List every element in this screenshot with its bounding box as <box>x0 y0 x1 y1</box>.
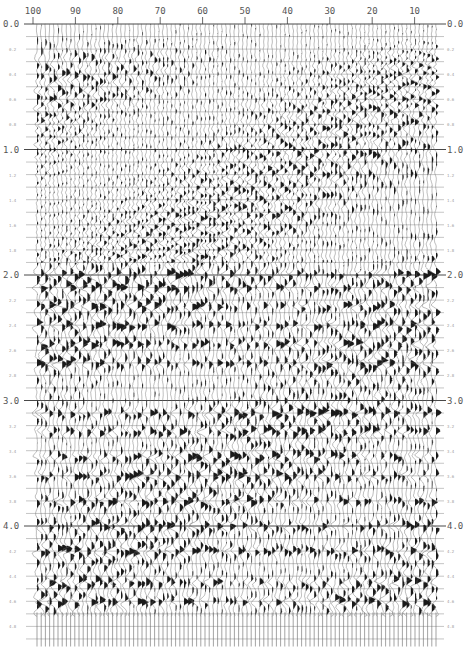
seismic-trace <box>254 24 264 616</box>
trace-fill <box>159 31 164 606</box>
time-minor-label: 4.4 <box>447 574 454 579</box>
time-minor-label: 4.6 <box>9 599 16 604</box>
time-minor-label: 2.2 <box>447 298 454 303</box>
seismic-plot-area <box>0 0 469 664</box>
time-minor-label: 0.4 <box>9 72 16 77</box>
time-minor-label: 0.6 <box>447 97 454 102</box>
time-major-label: 0.0 <box>3 19 19 29</box>
x-tick-label: 50 <box>240 6 251 16</box>
trace-fill <box>255 28 260 615</box>
trace-fill <box>276 25 283 606</box>
time-minor-label: 4.4 <box>9 574 16 579</box>
time-minor-label: 1.8 <box>9 247 16 252</box>
time-minor-label: 2.8 <box>447 373 454 378</box>
time-major-label: 2.0 <box>447 270 463 280</box>
time-major-label: 1.0 <box>3 145 19 155</box>
seismic-trace <box>307 24 320 616</box>
time-minor-label: 4.2 <box>447 549 454 554</box>
time-minor-label: 3.4 <box>9 448 16 453</box>
seismic-trace <box>77 24 88 616</box>
time-minor-label: 0.2 <box>447 47 454 52</box>
seismic-trace <box>56 24 68 616</box>
time-minor-label: 4.6 <box>447 599 454 604</box>
time-major-label: 4.0 <box>3 521 19 531</box>
time-minor-label: 3.2 <box>9 423 16 428</box>
time-minor-label: 3.2 <box>447 423 454 428</box>
time-minor-label: 3.8 <box>9 498 16 503</box>
time-minor-label: 1.2 <box>9 172 16 177</box>
time-minor-label: 4.8 <box>9 624 16 629</box>
time-major-label: 1.0 <box>447 145 463 155</box>
x-tick-label: 60 <box>197 6 208 16</box>
trace-fill <box>289 35 293 614</box>
time-minor-label: 0.8 <box>447 122 454 127</box>
trace-fill <box>117 43 124 594</box>
time-minor-label: 2.2 <box>9 298 16 303</box>
time-minor-label: 1.8 <box>447 247 454 252</box>
time-major-label: 3.0 <box>3 396 19 406</box>
x-tick-label: 80 <box>112 6 123 16</box>
time-major-label: 4.0 <box>447 521 463 531</box>
time-minor-label: 2.8 <box>9 373 16 378</box>
time-minor-label: 1.6 <box>447 222 454 227</box>
time-minor-label: 3.6 <box>9 473 16 478</box>
trace-fill <box>226 34 232 603</box>
trace-fill <box>247 36 253 599</box>
seismic-section-figure: 100908070605040302010 0.01.02.03.04.00.2… <box>0 0 469 664</box>
time-minor-label: 2.4 <box>447 323 454 328</box>
seismic-trace <box>371 24 383 616</box>
time-minor-label: 3.8 <box>447 498 454 503</box>
time-minor-label: 3.6 <box>447 473 454 478</box>
time-minor-label: 0.4 <box>447 72 454 77</box>
time-minor-label: 4.2 <box>9 549 16 554</box>
seismic-trace <box>63 24 76 616</box>
x-tick-label: 90 <box>70 6 81 16</box>
time-minor-label: 0.8 <box>9 122 16 127</box>
time-minor-label: 1.4 <box>9 197 16 202</box>
time-minor-label: 4.8 <box>447 624 454 629</box>
time-minor-label: 1.4 <box>447 197 454 202</box>
time-minor-label: 2.6 <box>9 348 16 353</box>
x-tick-label: 70 <box>155 6 166 16</box>
time-minor-label: 1.2 <box>447 172 454 177</box>
time-minor-label: 2.4 <box>9 323 16 328</box>
time-major-label: 3.0 <box>447 396 463 406</box>
time-minor-label: 3.4 <box>447 448 454 453</box>
trace-fill <box>314 25 320 611</box>
time-minor-label: 0.2 <box>9 47 16 52</box>
trace-fill <box>209 33 213 593</box>
trace-fill <box>243 34 249 606</box>
time-minor-label: 1.6 <box>9 222 16 227</box>
seismic-trace <box>119 24 130 616</box>
seismic-trace <box>195 24 207 616</box>
trace-fill <box>146 40 151 609</box>
x-tick-label: 40 <box>282 6 293 16</box>
x-tick-label: 30 <box>324 6 335 16</box>
time-minor-label: 0.6 <box>9 97 16 102</box>
seismic-trace <box>326 24 338 616</box>
time-major-label: 0.0 <box>447 19 463 29</box>
x-tick-label: 10 <box>409 6 420 16</box>
time-major-label: 2.0 <box>3 270 19 280</box>
time-minor-label: 2.6 <box>447 348 454 353</box>
x-tick-label: 100 <box>25 6 41 16</box>
trace-fill <box>398 29 403 595</box>
x-tick-label: 20 <box>367 6 378 16</box>
